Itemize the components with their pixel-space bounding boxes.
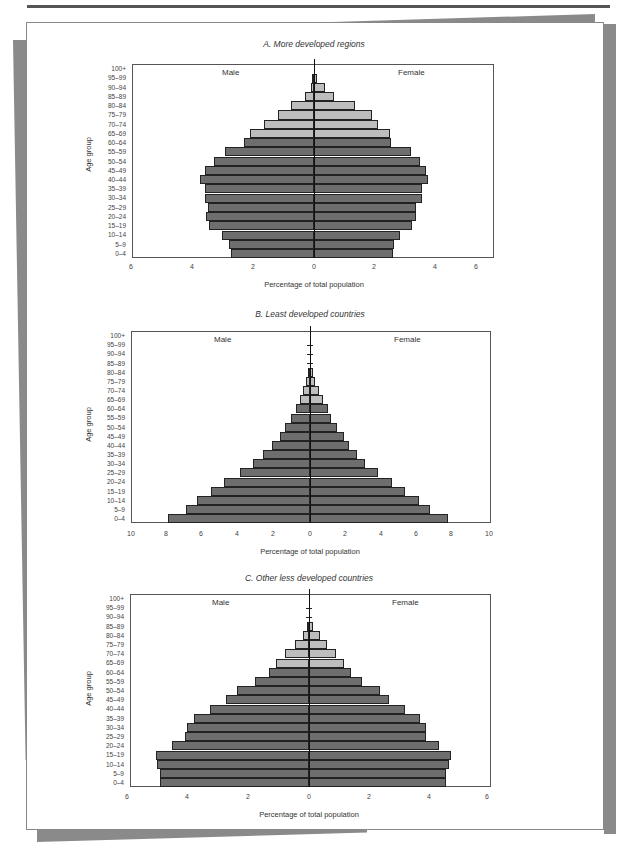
male-bar — [211, 487, 310, 496]
age-group-label: 0–4 — [84, 778, 124, 787]
female-bar — [314, 231, 400, 240]
male-bar — [206, 212, 314, 221]
male-bar — [303, 386, 310, 395]
female-bar — [309, 659, 344, 668]
age-group-label: 100+ — [84, 594, 124, 603]
female-bar — [314, 129, 390, 138]
y-axis-title: Age group — [84, 395, 93, 455]
chart-title: A. More developed regions — [114, 39, 514, 49]
female-bar — [314, 101, 355, 110]
x-tick-label: 10 — [479, 530, 499, 537]
male-bar — [186, 505, 310, 514]
male-bar — [280, 432, 310, 441]
male-bar — [187, 723, 309, 732]
x-axis-title: Percentage of total population — [214, 280, 414, 289]
male-bar — [224, 478, 310, 487]
age-group-label: 35–39 — [86, 184, 126, 193]
female-bar — [310, 395, 323, 404]
x-tick-label: 6 — [466, 263, 486, 270]
male-bar — [225, 147, 314, 156]
male-bar — [263, 450, 310, 459]
female-label: Female — [394, 335, 421, 344]
male-bar — [237, 686, 309, 695]
top-rule — [27, 5, 610, 8]
male-bar — [157, 760, 309, 769]
male-bar — [209, 221, 314, 230]
female-label: Female — [392, 598, 419, 607]
age-group-label: 20–24 — [84, 741, 124, 750]
male-bar — [295, 640, 309, 649]
age-group-label: 75–79 — [86, 110, 126, 119]
female-bar — [314, 212, 416, 221]
x-tick-label: 4 — [371, 530, 391, 537]
male-bar — [250, 129, 314, 138]
age-group-label: 25–29 — [86, 203, 126, 212]
age-group-label: 80–84 — [85, 368, 125, 377]
age-group-label: 95–99 — [86, 73, 126, 82]
age-group-label: 75–79 — [85, 377, 125, 386]
male-bar — [240, 468, 310, 477]
age-group-label: 10–14 — [84, 760, 124, 769]
female-bar — [314, 175, 428, 184]
age-group-label: 20–24 — [85, 477, 125, 486]
age-group-label: 15–19 — [86, 221, 126, 230]
x-tick-label: 2 — [238, 793, 258, 800]
page-shadow-right — [604, 24, 616, 834]
male-bar — [264, 120, 314, 129]
male-bar — [296, 404, 310, 413]
female-bar — [309, 778, 446, 787]
female-bar — [314, 92, 334, 101]
female-label: Female — [398, 68, 425, 77]
female-bar — [309, 631, 320, 640]
male-bar — [272, 441, 310, 450]
male-bar — [160, 778, 309, 787]
male-bar — [226, 695, 309, 704]
male-bar — [229, 240, 314, 249]
female-bar — [310, 450, 357, 459]
male-bar — [269, 668, 309, 677]
male-bar — [185, 732, 309, 741]
chart-title: C. Other less developed countries — [109, 573, 509, 583]
age-group-label: 30–34 — [84, 723, 124, 732]
age-group-label: 100+ — [86, 64, 126, 73]
female-bar — [314, 147, 411, 156]
male-label: Male — [214, 335, 231, 344]
female-bar — [309, 677, 362, 686]
age-group-label: 10–14 — [85, 496, 125, 505]
x-tick-label: 10 — [121, 530, 141, 537]
male-bar — [208, 203, 314, 212]
female-bar — [314, 221, 412, 230]
x-tick-label: 2 — [263, 530, 283, 537]
x-tick-label: 2 — [335, 530, 355, 537]
x-tick-label: 2 — [359, 793, 379, 800]
male-bar — [197, 496, 310, 505]
age-group-label: 85–89 — [85, 359, 125, 368]
female-bar — [314, 110, 372, 119]
age-group-label: 0–4 — [85, 514, 125, 523]
female-bar — [314, 203, 416, 212]
male-bar — [253, 459, 310, 468]
age-group-label: 20–24 — [86, 212, 126, 221]
female-bar — [314, 166, 426, 175]
female-bar — [310, 496, 419, 505]
female-bar — [314, 138, 391, 147]
age-group-label: 85–89 — [84, 622, 124, 631]
x-tick-label: 8 — [441, 530, 461, 537]
male-bar — [222, 231, 314, 240]
female-bar — [309, 714, 420, 723]
female-bar — [310, 505, 430, 514]
female-bar — [309, 686, 380, 695]
age-group-label: 95–99 — [84, 603, 124, 612]
female-bar — [309, 649, 336, 658]
x-tick-label: 4 — [182, 263, 202, 270]
age-group-label: 80–84 — [84, 631, 124, 640]
female-bar — [309, 760, 449, 769]
male-bar — [300, 395, 310, 404]
female-bar — [309, 668, 351, 677]
male-bar — [291, 414, 310, 423]
female-bar — [309, 640, 327, 649]
age-group-label: 15–19 — [85, 487, 125, 496]
male-bar — [205, 184, 314, 193]
female-bar — [314, 120, 378, 129]
age-group-label: 100+ — [85, 331, 125, 340]
